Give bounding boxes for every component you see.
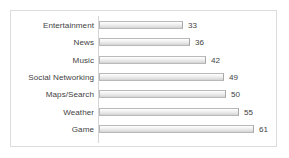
value-label: 42 <box>206 55 220 64</box>
bar-row: Maps/Search50 <box>11 86 276 103</box>
bar-row: Entertainment33 <box>11 17 276 34</box>
bar-track <box>99 125 254 133</box>
value-label: 61 <box>254 124 268 133</box>
bar[interactable] <box>99 125 254 133</box>
category-label: Social Networking <box>11 73 94 82</box>
value-label: 49 <box>224 73 238 82</box>
plot-area: Entertainment33News36Music42Social Netwo… <box>11 11 276 146</box>
bar[interactable] <box>99 21 183 29</box>
bar-track <box>99 21 183 29</box>
category-label: News <box>11 38 94 47</box>
bar[interactable] <box>99 38 190 46</box>
category-label: Maps/Search <box>11 90 94 99</box>
category-label: Game <box>11 124 94 133</box>
bar[interactable] <box>99 73 224 81</box>
bar-track <box>99 56 206 64</box>
value-label: 36 <box>190 38 204 47</box>
value-label: 33 <box>183 21 197 30</box>
bar-row: Social Networking49 <box>11 68 276 85</box>
bar-row: News36 <box>11 34 276 51</box>
bar-track <box>99 108 239 116</box>
value-label: 55 <box>239 107 253 116</box>
value-label: 50 <box>226 90 240 99</box>
bar-row: Music42 <box>11 51 276 68</box>
bar-track <box>99 73 224 81</box>
category-label: Weather <box>11 107 94 116</box>
bar-row: Weather55 <box>11 103 276 120</box>
bar[interactable] <box>99 90 226 98</box>
chart-frame: Entertainment33News36Music42Social Netwo… <box>10 10 277 147</box>
category-label: Music <box>11 55 94 64</box>
bar[interactable] <box>99 56 206 64</box>
bar-track <box>99 90 226 98</box>
bar-row: Game61 <box>11 120 276 137</box>
category-label: Entertainment <box>11 21 94 30</box>
bar-track <box>99 38 190 46</box>
bar[interactable] <box>99 108 239 116</box>
